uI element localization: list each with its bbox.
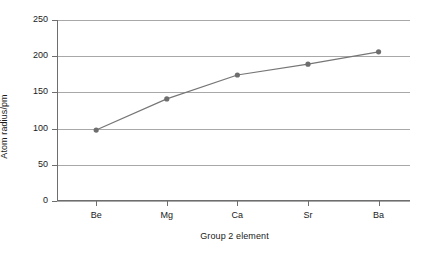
series-line bbox=[96, 52, 378, 130]
series-markers bbox=[94, 49, 382, 132]
data-point bbox=[235, 72, 240, 77]
line-chart: Atom radius/pm 050100150200250 BeMgCaSrB… bbox=[0, 0, 421, 253]
data-point bbox=[94, 127, 99, 132]
data-point bbox=[305, 62, 310, 67]
x-axis-title: Group 2 element bbox=[57, 231, 412, 241]
data-series-layer bbox=[0, 0, 421, 253]
data-point bbox=[164, 96, 169, 101]
data-point bbox=[376, 49, 381, 54]
